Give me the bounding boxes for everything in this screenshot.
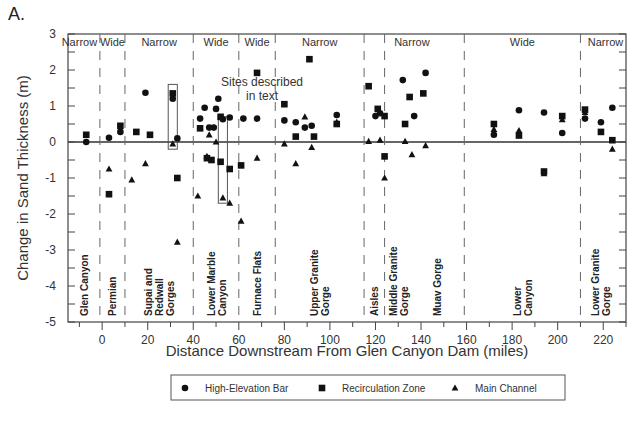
square-point bbox=[406, 94, 413, 101]
width-label: Wide bbox=[245, 36, 270, 48]
square-point bbox=[217, 159, 224, 166]
triangle-point bbox=[238, 218, 245, 224]
series-circle bbox=[83, 70, 616, 146]
reach-name: Furnace Flats bbox=[252, 251, 263, 316]
circle-point bbox=[609, 105, 616, 112]
width-label: Narrow bbox=[141, 36, 177, 48]
square-point bbox=[609, 137, 616, 144]
circle-point bbox=[411, 113, 418, 120]
triangle-point bbox=[409, 151, 416, 157]
circle-point bbox=[213, 106, 220, 113]
circle-point bbox=[559, 130, 566, 137]
triangle-point bbox=[381, 174, 388, 180]
triangle-point bbox=[292, 160, 299, 166]
triangle-point bbox=[422, 142, 429, 148]
circle-point bbox=[308, 123, 315, 130]
circle-point bbox=[210, 124, 217, 131]
circle-point bbox=[516, 107, 523, 114]
circle-point bbox=[201, 105, 208, 112]
circle-point bbox=[582, 115, 589, 122]
triangle-point bbox=[106, 165, 113, 171]
y-tick-label: 2 bbox=[49, 63, 56, 77]
square-point bbox=[281, 101, 288, 108]
reach-name: Aisles bbox=[369, 286, 380, 316]
circle-point bbox=[215, 96, 222, 103]
reach-name: Gorge bbox=[399, 286, 410, 316]
triangle-point bbox=[516, 127, 523, 133]
triangle-point bbox=[402, 138, 409, 144]
reach-name: Lower Granite bbox=[590, 248, 601, 316]
circle-point bbox=[254, 115, 261, 122]
circle-point bbox=[400, 77, 407, 84]
triangle-point bbox=[301, 113, 308, 119]
square-point bbox=[106, 191, 113, 198]
square-point bbox=[174, 175, 181, 182]
square-point bbox=[402, 121, 409, 128]
reach-name: Gorge bbox=[601, 286, 612, 316]
circle-point bbox=[142, 89, 149, 96]
series-triangle bbox=[106, 109, 616, 245]
square-point bbox=[381, 153, 388, 160]
y-tick-label: -1 bbox=[45, 171, 56, 185]
square-point bbox=[147, 132, 154, 139]
legend-marker-triangle bbox=[452, 384, 459, 390]
square-point bbox=[420, 90, 427, 97]
square-point bbox=[598, 129, 605, 136]
triangle-point bbox=[206, 131, 213, 137]
reach-name: Redwall bbox=[154, 278, 165, 316]
reach-name: Canyon bbox=[217, 279, 228, 316]
width-label: Narrow bbox=[302, 36, 338, 48]
circle-point bbox=[302, 124, 309, 131]
circle-point bbox=[281, 117, 288, 124]
y-tick-label: -2 bbox=[45, 207, 56, 221]
circle-point bbox=[292, 119, 299, 126]
square-point bbox=[117, 123, 124, 130]
reach-name: Canyon bbox=[523, 279, 534, 316]
legend-marker-circle bbox=[182, 385, 189, 392]
y-axis-title: Change in Sand Thickness (m) bbox=[14, 75, 31, 281]
square-point bbox=[169, 90, 176, 97]
circle-point bbox=[333, 112, 340, 119]
square-point bbox=[374, 106, 381, 113]
x-axis-title: Distance Downstream From Glen Canyon Dam… bbox=[166, 342, 529, 359]
reach-names: Glen CanyonPermianSupai andRedwallGorges… bbox=[79, 246, 613, 316]
circle-point bbox=[174, 135, 181, 142]
square-point bbox=[292, 133, 299, 140]
width-label: Wide bbox=[510, 36, 535, 48]
circle-point bbox=[598, 119, 605, 126]
reach-name: Upper Granite bbox=[309, 249, 320, 316]
reach-name: Gorge bbox=[320, 286, 331, 316]
circle-point bbox=[240, 115, 247, 122]
triangle-point bbox=[169, 140, 176, 146]
width-label: Narrow bbox=[588, 36, 624, 48]
chart-svg: A. NarrowWideNarrowWideWideNarrowNarrowW… bbox=[0, 0, 644, 421]
reach-name: Gorges bbox=[165, 281, 176, 316]
reach-name: Permian bbox=[107, 277, 118, 316]
circle-point bbox=[226, 114, 233, 121]
reach-name: Lower bbox=[512, 286, 523, 316]
x-tick-label: 0 bbox=[99, 333, 106, 347]
panel-label: A. bbox=[8, 4, 25, 24]
legend: High-Elevation BarRecirculation ZoneMain… bbox=[171, 375, 565, 400]
square-point bbox=[197, 125, 204, 132]
triangle-point bbox=[142, 160, 149, 166]
circle-point bbox=[117, 129, 124, 136]
triangle-point bbox=[219, 194, 226, 200]
y-tick-label: 3 bbox=[49, 27, 56, 41]
data-points bbox=[83, 56, 616, 245]
square-point bbox=[226, 166, 233, 173]
region-boundaries bbox=[100, 34, 581, 322]
triangle-point bbox=[194, 192, 201, 198]
legend-label: Recirculation Zone bbox=[342, 383, 426, 394]
triangle-point bbox=[365, 138, 372, 144]
y-tick-label: -3 bbox=[45, 243, 56, 257]
width-label: Narrow bbox=[62, 36, 98, 48]
circle-point bbox=[197, 115, 204, 122]
square-point bbox=[83, 132, 90, 139]
reach-name: Supai and bbox=[143, 268, 154, 316]
circle-point bbox=[541, 109, 548, 116]
triangle-point bbox=[128, 176, 135, 182]
reach-name: Glen Canyon bbox=[79, 254, 90, 316]
series-square bbox=[83, 56, 616, 198]
y-tick-label: 0 bbox=[49, 135, 56, 149]
